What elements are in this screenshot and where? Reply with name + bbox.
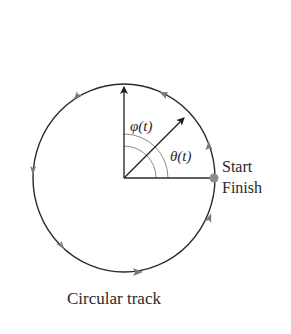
direction-arrows: [30, 89, 214, 276]
direction-arrow-icon: [72, 90, 82, 99]
start-finish-dot: [210, 174, 219, 183]
phi-label: φ(t): [130, 119, 152, 134]
diagram-caption: Circular track: [67, 290, 161, 307]
direction-arrow-icon: [158, 89, 169, 99]
theta-label: θ(t): [170, 149, 192, 164]
finish-label: Finish: [222, 180, 262, 196]
direction-arrow-icon: [205, 141, 213, 151]
start-label: Start: [222, 159, 252, 175]
